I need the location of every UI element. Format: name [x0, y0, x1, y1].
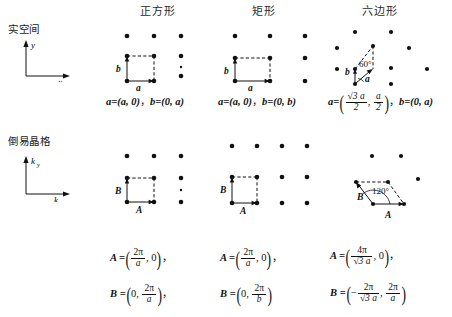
fraction-B2: 2πa — [386, 283, 400, 304]
vector-label-B: B — [356, 192, 363, 202]
vector-label-a: a — [248, 83, 253, 93]
fraction-A-denominator: a — [131, 259, 145, 269]
paren-open: ( — [125, 251, 130, 267]
fraction-B-denominator: a — [142, 295, 156, 305]
formula-A-tail: ， — [162, 252, 172, 263]
lattice-real-rectangular: b a — [218, 30, 318, 92]
lattice-dots — [354, 154, 420, 206]
fraction-B1-denominator: √3 a — [358, 294, 379, 304]
lattice-reciprocal-rectangular: B A — [216, 140, 326, 216]
formula-b-rectangular: b=(0, b) — [262, 96, 296, 107]
cell-edge-right-dashed — [388, 182, 404, 204]
paren-open: ( — [235, 251, 240, 267]
ky-axis-arrow-icon — [23, 156, 28, 163]
axis-label-y: y — [30, 40, 35, 50]
paren-open: ( — [126, 287, 131, 303]
formula-reciprocal-square-B: B =(0, 2πa)， — [110, 284, 172, 305]
vector-label-b: b — [224, 66, 229, 76]
paren-open: ( — [236, 287, 241, 303]
angle-label-60: 60° — [359, 59, 372, 69]
fraction-B2-denominator: a — [386, 294, 400, 304]
paren-close: ) — [384, 249, 389, 265]
vector-label-b: b — [345, 67, 350, 77]
lattice-dots — [230, 144, 310, 206]
formula-b-hexagonal: b=(0, a) — [399, 96, 433, 107]
formula-sep: ， — [389, 96, 399, 107]
paren-open: ( — [340, 95, 345, 111]
formula-b-square: b=(0, a) — [150, 96, 184, 107]
axis-label-ky-sub: y — [36, 161, 40, 168]
paren-close: ) — [267, 251, 272, 267]
formula-a-lead: a= — [328, 96, 339, 107]
fraction-ax-denominator: 2 — [346, 103, 367, 113]
formula-sep: ， — [140, 96, 150, 107]
formula-B-tail: ， — [162, 288, 172, 299]
row-label-real-space: 实空间 — [8, 21, 40, 36]
formula-a-square: a=(a, 0) — [106, 96, 140, 107]
formula-real-rectangular: a=(a, 0)，b=(0, b) — [218, 97, 296, 108]
vector-label-A: A — [384, 210, 391, 220]
column-header-hexagonal: 六边形 — [330, 2, 430, 18]
angle-label-120: 120° — [372, 186, 390, 196]
formula-a-rectangular: a=(a, 0) — [218, 96, 252, 107]
comma: , — [136, 288, 141, 299]
paren-close: ) — [267, 287, 272, 303]
fraction-B: 2πb — [252, 284, 266, 305]
formula-A-tail: ， — [272, 252, 282, 263]
fraction-ay-denominator: 2 — [374, 103, 383, 113]
formula-real-hexagonal: a=(√3 a2, a2)，b=(0, a) — [328, 92, 433, 113]
row-label-reciprocal-lattice: 倒易晶格 — [8, 133, 50, 148]
formula-A-second: 0 — [379, 250, 384, 261]
vector-label-b: b — [116, 64, 121, 74]
formula-B-lead: B = — [220, 288, 236, 299]
formula-A-lead: A = — [110, 252, 125, 263]
vector-label-B: B — [114, 186, 121, 196]
vector-label-B: B — [219, 185, 226, 195]
formula-A-lead: A = — [220, 252, 235, 263]
paren-close: ) — [157, 287, 162, 303]
y-axis-arrow-icon — [23, 40, 28, 47]
formula-real-square: a=(a, 0)，b=(0, a) — [106, 97, 184, 108]
axis-label-kx: k — [54, 195, 59, 202]
vector-label-A: A — [135, 205, 142, 215]
comma: , — [380, 287, 385, 298]
vector-label-a: a — [136, 83, 141, 93]
axis-key-reciprocal: k y k x — [18, 152, 80, 198]
formula-reciprocal-rectangular-A: A =(2πa, 0)， — [220, 248, 282, 269]
lattice-real-square: b a — [110, 30, 210, 92]
paren-close: ) — [384, 95, 389, 111]
vector-label-A: A — [239, 206, 246, 216]
formula-sep: ， — [252, 96, 262, 107]
lattice-reciprocal-square: B A — [110, 150, 210, 214]
x-axis-arrow-icon — [63, 73, 70, 78]
fraction-ax: √3 a2 — [346, 92, 367, 113]
formula-reciprocal-hexagonal-B: B =(−2π√3 a, 2πa) — [330, 283, 406, 304]
axis-label-x: x — [57, 77, 62, 82]
formula-reciprocal-hexagonal-A: A =(4π√3 a, 0)， — [330, 246, 399, 267]
axis-label-kx-sub: x — [59, 199, 63, 202]
fraction-A: 4π√3 a — [351, 246, 372, 267]
formula-A-lead: A = — [330, 250, 345, 261]
fraction-A-denominator: √3 a — [351, 257, 372, 267]
lattice-figure: 正方形 矩形 六边形 实空间 y x — [0, 0, 452, 317]
paren-close: ) — [157, 251, 162, 267]
comma: , — [246, 288, 251, 299]
fraction-B: 2πa — [142, 284, 156, 305]
formula-B-minus: − — [351, 287, 357, 298]
fraction-B-denominator: b — [252, 295, 266, 305]
fraction-ay: a2 — [374, 92, 383, 113]
fraction-A: 2πa — [241, 248, 255, 269]
vector-label-a: a — [365, 74, 370, 84]
paren-open: ( — [345, 249, 350, 265]
formula-A-tail: ， — [389, 250, 399, 261]
fraction-A: 2πa — [131, 248, 145, 269]
formula-reciprocal-square-A: A =(2πa, 0)， — [110, 248, 172, 269]
lattice-reciprocal-hexagonal: 120° B A — [330, 146, 452, 220]
fraction-B1: 2π√3 a — [358, 283, 379, 304]
lattice-real-hexagonal: 60° b a — [318, 26, 448, 92]
formula-reciprocal-rectangular-B: B =(0, 2πb) — [220, 284, 272, 305]
paren-close: ) — [401, 286, 406, 302]
formula-B-lead: B = — [330, 287, 346, 298]
formula-B-lead: B = — [110, 288, 126, 299]
axis-key-real-space: y x — [18, 36, 80, 82]
